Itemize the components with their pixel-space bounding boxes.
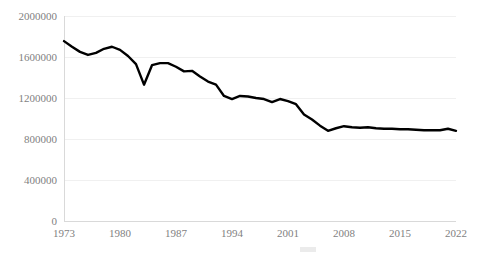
x-tick-label: 1987 (165, 227, 188, 239)
gridlines (64, 16, 456, 221)
series-line-annual-series (64, 41, 456, 131)
y-axis-tick-labels: 0400000800000120000016000002000000 (19, 10, 58, 227)
data-series (64, 41, 456, 131)
y-tick-label: 0 (52, 215, 58, 227)
chart-canvas: 0400000800000120000016000002000000 19731… (0, 0, 477, 263)
x-tick-label: 2015 (389, 227, 412, 239)
x-tick-label: 2008 (333, 227, 356, 239)
x-tick-label: 2022 (445, 227, 467, 239)
y-tick-label: 400000 (24, 174, 58, 186)
x-axis-tick-labels: 19731980198719942001200820152022 (53, 227, 467, 239)
y-tick-label: 2000000 (19, 10, 58, 22)
x-tick-label: 1973 (53, 227, 76, 239)
x-tick-label: 1994 (221, 227, 244, 239)
x-tick-label: 1980 (109, 227, 132, 239)
x-tick-label: 2001 (277, 227, 299, 239)
line-chart: 0400000800000120000016000002000000 19731… (0, 0, 477, 263)
y-tick-label: 800000 (24, 133, 58, 145)
footer-artifact (300, 247, 316, 252)
y-tick-label: 1600000 (19, 51, 58, 63)
y-tick-label: 1200000 (19, 92, 58, 104)
